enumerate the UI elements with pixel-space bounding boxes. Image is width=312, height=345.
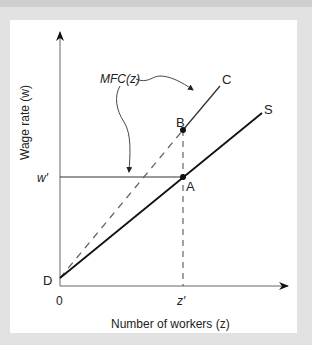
point-a-label: A [186, 179, 195, 194]
mfc-curve-solid [183, 86, 220, 130]
mfc-arrow-to-wage-line [117, 86, 130, 172]
point-s-label: S [264, 102, 273, 117]
mfc-label: MFC(z) [100, 72, 140, 86]
point-b-label: B [176, 115, 185, 130]
mfc-arrow-to-curve [136, 76, 193, 90]
supply-curve [60, 113, 262, 278]
mfc-curve-dashed [60, 130, 183, 278]
point-c-label: C [222, 72, 231, 87]
y-tick-label: w′ [37, 171, 49, 185]
point-d-label: D [43, 273, 52, 288]
origin-label: 0 [56, 294, 63, 308]
x-axis-label: Number of workers (z) [111, 317, 230, 331]
monopsony-diagram: MFC(z) C S B A D w′ 0 z′ Number of worke… [0, 0, 312, 345]
x-tick-label: z′ [176, 294, 186, 308]
y-axis-label: Wage rate (w) [18, 85, 32, 160]
